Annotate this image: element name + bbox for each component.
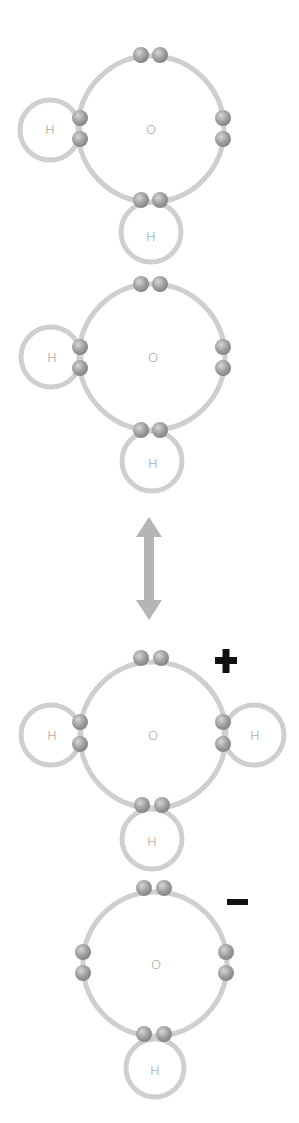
molecule-water-1: O H H	[20, 47, 231, 262]
electron-icon	[133, 650, 149, 666]
electron-icon	[72, 110, 88, 126]
oxygen-label: O	[148, 350, 158, 365]
hydrogen-label-left: H	[47, 728, 57, 743]
electron-icon	[134, 797, 150, 813]
electron-icon	[75, 944, 91, 960]
hydrogen-label-bottom: H	[146, 229, 156, 244]
electron-icon	[72, 360, 88, 376]
electron-icon	[72, 714, 88, 730]
electron-icon	[215, 339, 231, 355]
electron-icon	[133, 47, 149, 63]
molecule-hydronium: O H H H	[21, 649, 284, 869]
electron-icon	[156, 880, 172, 896]
molecule-water-2: O H H	[21, 276, 231, 491]
electron-icon	[215, 360, 231, 376]
water-ionization-diagram: O H H O H H	[0, 0, 299, 1123]
double-arrow-icon	[136, 517, 162, 620]
electron-icon	[133, 192, 149, 208]
hydrogen-label-bottom: H	[147, 834, 157, 849]
electron-icon	[215, 110, 231, 126]
electron-icon	[72, 339, 88, 355]
molecule-hydroxide: O H	[75, 880, 248, 1097]
minus-charge-icon	[227, 899, 248, 905]
hydrogen-label-right: H	[250, 728, 260, 743]
hydrogen-label-left: H	[47, 350, 57, 365]
electron-icon	[152, 47, 168, 63]
electron-icon	[133, 276, 149, 292]
electron-icon	[136, 1026, 152, 1042]
electron-icon	[75, 965, 91, 981]
electron-icon	[215, 714, 231, 730]
electron-icon	[133, 422, 149, 438]
hydrogen-label-bottom: H	[150, 1063, 160, 1078]
electron-icon	[152, 422, 168, 438]
electron-icon	[218, 944, 234, 960]
hydrogen-label-left: H	[45, 122, 55, 137]
electron-icon	[215, 131, 231, 147]
electron-icon	[218, 965, 234, 981]
electron-icon	[215, 736, 231, 752]
electron-icon	[72, 131, 88, 147]
electron-icon	[152, 192, 168, 208]
oxygen-label: O	[151, 957, 161, 972]
electron-icon	[154, 797, 170, 813]
electron-icon	[153, 650, 169, 666]
oxygen-label: O	[146, 122, 156, 137]
oxygen-label: O	[148, 728, 158, 743]
hydrogen-label-bottom: H	[148, 456, 158, 471]
electron-icon	[72, 736, 88, 752]
electron-icon	[156, 1026, 172, 1042]
plus-charge-icon	[215, 649, 237, 673]
electron-icon	[136, 880, 152, 896]
electron-icon	[152, 276, 168, 292]
